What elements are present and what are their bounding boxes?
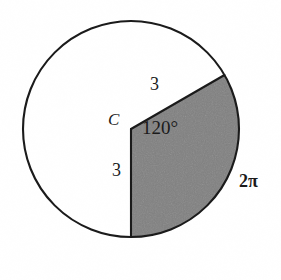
geometry-figure: C 3 3 120° 2π — [0, 0, 281, 280]
arc-length-label: 2π — [239, 172, 258, 190]
circle-sector-svg — [0, 0, 281, 280]
central-angle-label: 120° — [142, 118, 178, 137]
radius-lower-label: 3 — [112, 161, 121, 179]
center-point-label: C — [108, 111, 119, 128]
radius-upper-label: 3 — [150, 75, 159, 93]
